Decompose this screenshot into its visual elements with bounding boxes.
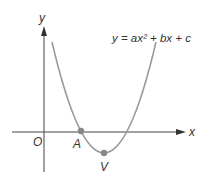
- y-axis-label: y: [38, 11, 46, 25]
- y-axis-arrow-icon: [41, 26, 47, 36]
- point-v-label: V: [100, 160, 109, 174]
- diagram-canvas: y x O A V y = ax² + bx + c: [0, 0, 210, 181]
- parabola-diagram: y x O A V y = ax² + bx + c: [0, 0, 210, 181]
- x-axis-arrow-icon: [176, 129, 186, 135]
- x-axis-label: x: [188, 125, 196, 139]
- equation-label: y = ax² + bx + c: [111, 32, 191, 44]
- parabola-curve: [52, 42, 156, 153]
- point-a-label: A: [72, 137, 81, 151]
- point-a-marker: [78, 128, 84, 134]
- origin-label: O: [33, 135, 42, 149]
- point-v-marker: [101, 150, 107, 156]
